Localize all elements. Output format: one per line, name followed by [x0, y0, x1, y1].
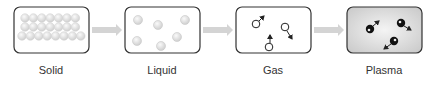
solid-particle [29, 23, 38, 32]
solid-particle [71, 23, 80, 32]
liquid-particle [157, 42, 166, 51]
liquid-particle [173, 33, 182, 42]
solid-particle [71, 14, 80, 23]
label-solid: Solid [12, 64, 90, 76]
transition-arrow-liquid-gas [203, 24, 233, 36]
solid-particle [46, 23, 55, 32]
solid-particles [18, 14, 85, 41]
solid-particle [29, 14, 38, 23]
liquid-particle [134, 16, 143, 25]
solid-particle [26, 32, 35, 41]
solid-particle [63, 23, 72, 32]
transition-arrow-gas-plasma [314, 24, 344, 36]
label-liquid: Liquid [123, 64, 201, 76]
transition-arrow-solid-liquid [92, 24, 122, 36]
label-gas: Gas [234, 64, 312, 76]
solid-particle [54, 14, 63, 23]
solid-particle [38, 23, 47, 32]
solid-particle [60, 32, 69, 41]
solid-particle [21, 14, 30, 23]
plasma-box [347, 7, 422, 53]
solid-particle [63, 14, 72, 23]
liquid-particle [154, 21, 163, 30]
solid-particle [46, 14, 55, 23]
solid-particle [68, 32, 77, 41]
solid-particle [51, 32, 60, 41]
solid-particle [38, 14, 47, 23]
solid-particle [43, 32, 52, 41]
solid-box [14, 7, 89, 53]
solid-particle [77, 32, 86, 41]
gas-box [236, 7, 311, 53]
solid-particle [18, 32, 27, 41]
solid-particle [54, 23, 63, 32]
liquid-particle [181, 16, 190, 25]
liquid-particle [133, 37, 142, 46]
solid-particle [21, 23, 30, 32]
label-plasma: Plasma [345, 64, 423, 76]
liquid-box [125, 7, 200, 53]
solid-particle [35, 32, 44, 41]
